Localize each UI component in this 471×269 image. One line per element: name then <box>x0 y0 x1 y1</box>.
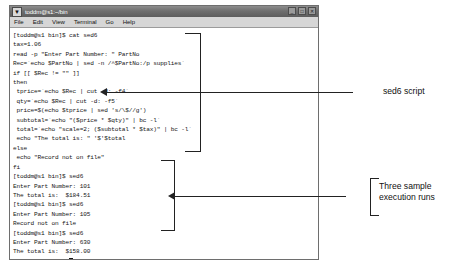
window-menu-icon[interactable]: ▼ <box>12 7 22 17</box>
menu-help[interactable]: Help <box>123 19 135 25</box>
terminal-line: subtotal=`echo "($price * $qty)" | bc -l… <box>13 116 318 125</box>
script-leader-line <box>103 92 353 93</box>
runs-annotation-label: Three sample execution runs <box>379 181 435 203</box>
terminal-line: price=$(echo $tprice | sed 's/\$//g') <box>13 106 318 115</box>
menu-view[interactable]: View <box>52 19 65 25</box>
terminal-line: [toddm@s1 bin]$ cat sed6 <box>13 31 318 40</box>
terminal-line: echo "The total is: " '$'$total <box>13 134 318 143</box>
runs-leader-line <box>171 196 346 197</box>
menu-go[interactable]: Go <box>106 19 114 25</box>
terminal-prompt-line: [toddm@s1 bin]$ <box>13 257 318 259</box>
minimize-button[interactable]: _ <box>288 7 296 15</box>
terminal-line: The total is: $158.00 <box>13 247 318 256</box>
window-titlebar[interactable]: ▼ toddm@s1:~/bin _ □ ✕ <box>10 6 318 17</box>
script-annotation-label: sed6 script <box>383 86 425 97</box>
terminal-line: qty=`echo $Rec | cut -d: -f5` <box>13 97 318 106</box>
terminal-line: if [[ $Rec != "" ]] <box>13 69 318 78</box>
terminal-line: total=`echo "scale=2; ($subtotal * $tax)… <box>13 125 318 134</box>
window-controls: _ □ ✕ <box>288 7 316 15</box>
script-arrowhead-icon <box>100 88 107 96</box>
terminal-line: read -p "Enter Part Number: " PartNo <box>13 50 318 59</box>
maximize-button[interactable]: □ <box>298 7 306 15</box>
runs-arrowhead-icon <box>168 192 175 200</box>
terminal-line: Rec=`echo $PartNo | sed -n /^$PartNo:/p … <box>13 59 318 68</box>
menu-bar: File Edit View Terminal Go Help <box>10 17 318 28</box>
close-button[interactable]: ✕ <box>308 7 316 15</box>
runs-label-bracket <box>370 178 379 216</box>
menu-edit[interactable]: Edit <box>33 19 43 25</box>
window-title: toddm@s1:~/bin <box>25 9 68 15</box>
menu-terminal[interactable]: Terminal <box>74 19 97 25</box>
terminal-line: tax=1.06 <box>13 40 318 49</box>
menu-file[interactable]: File <box>14 19 24 25</box>
terminal-line: Enter Part Number: 630 <box>13 238 318 247</box>
terminal-cursor <box>69 258 73 259</box>
terminal-line: else <box>13 144 318 153</box>
terminal-prompt-text: [toddm@s1 bin]$ <box>13 258 69 259</box>
terminal-line: then <box>13 78 318 87</box>
